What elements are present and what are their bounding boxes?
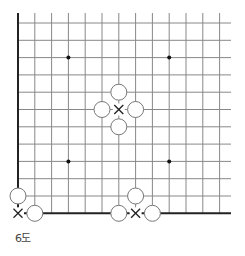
go-board-diagram: [0, 0, 245, 256]
star-point-icon: [66, 159, 70, 163]
white-stone-icon: [94, 102, 110, 118]
white-stone-icon: [111, 205, 127, 221]
white-stone-icon: [128, 102, 144, 118]
white-stone-icon: [144, 205, 160, 221]
star-point-icon: [167, 159, 171, 163]
white-stone-icon: [128, 188, 144, 204]
star-point-icon: [167, 56, 171, 60]
star-point-icon: [66, 56, 70, 60]
diagram-caption: 6도: [15, 229, 31, 245]
white-stone-icon: [111, 84, 127, 100]
white-stone-icon: [27, 205, 43, 221]
white-stone-icon: [10, 188, 26, 204]
white-stone-icon: [111, 119, 127, 135]
